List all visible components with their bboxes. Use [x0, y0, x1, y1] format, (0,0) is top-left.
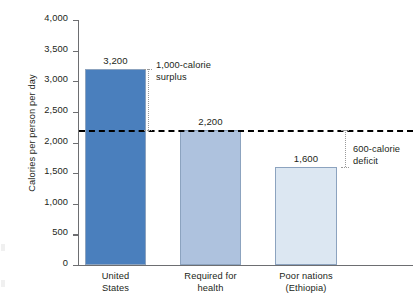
- y-tick-mark: [73, 20, 78, 21]
- y-tick-label: 500: [52, 227, 68, 237]
- category-label-line: Required for: [158, 271, 263, 283]
- reference-line-2200: [79, 130, 413, 132]
- x-axis-line: [78, 265, 413, 266]
- y-tick-label: 2,000: [44, 136, 68, 146]
- category-label-line: (Ethiopia): [253, 283, 359, 295]
- y-axis-title: Calories per person per day: [27, 38, 37, 228]
- annotation-leader-surplus: [148, 69, 149, 130]
- category-label-line: Poor nations: [253, 271, 359, 283]
- y-tick-mark: [73, 51, 78, 52]
- y-tick-label: 4,000: [44, 13, 68, 23]
- annotation-text-line: 600-calorie: [353, 144, 400, 156]
- bar-2: [180, 130, 241, 265]
- bar-value-label-2: 2,200: [180, 116, 241, 127]
- category-label-line: United: [63, 271, 168, 283]
- y-tick-mark: [73, 81, 78, 82]
- annotation-text-surplus: 1,000-caloriesurplus: [156, 60, 211, 83]
- annotation-text-line: 1,000-calorie: [156, 60, 211, 72]
- annotation-leader-cap-deficit-top: [341, 130, 349, 131]
- y-tick-mark: [73, 173, 78, 174]
- annotation-leader-cap-surplus-top: [144, 69, 152, 70]
- annotation-text-line: deficit: [353, 156, 400, 168]
- annotation-text-deficit: 600-caloriedeficit: [353, 144, 400, 167]
- y-tick-mark: [73, 143, 78, 144]
- category-label-line: States: [63, 283, 168, 295]
- annotation-leader-deficit: [345, 130, 346, 167]
- page-edge-mark: [1, 280, 5, 287]
- category-label-3: Poor nations(Ethiopia): [253, 271, 359, 294]
- category-label-2: Required forhealth: [158, 271, 263, 294]
- y-tick-mark: [73, 112, 78, 113]
- y-tick-mark: [73, 234, 78, 235]
- y-tick-label: 2,500: [44, 105, 68, 115]
- bar-value-label-3: 1,600: [275, 153, 337, 164]
- y-tick-label: 1,500: [44, 166, 68, 176]
- annotation-leader-cap-deficit-bottom: [341, 167, 349, 168]
- category-label-line: health: [158, 283, 263, 295]
- y-tick-mark: [73, 265, 78, 266]
- y-tick-label: 3,500: [44, 44, 68, 54]
- page-edge-mark: [1, 244, 5, 251]
- y-axis-line: [78, 20, 79, 266]
- bar-3: [275, 167, 337, 265]
- annotation-text-line: surplus: [156, 72, 211, 84]
- y-tick-mark: [73, 204, 78, 205]
- bar-chart: Calories per person per day 05001,0001,5…: [0, 0, 413, 307]
- category-label-1: UnitedStates: [63, 271, 168, 294]
- y-tick-label: 3,000: [44, 74, 68, 84]
- y-tick-label: 1,000: [44, 197, 68, 207]
- annotation-leader-cap-surplus-bottom: [144, 130, 152, 131]
- y-tick-label: 0: [63, 258, 68, 268]
- bar-value-label-1: 3,200: [85, 55, 146, 66]
- bar-1: [85, 69, 146, 265]
